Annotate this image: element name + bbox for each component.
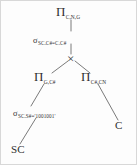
node-selection-student-number: σSC.S#='1001001' bbox=[13, 105, 55, 118]
relation-label: SC bbox=[11, 143, 25, 155]
node-projection-left: ΠG,C# bbox=[34, 70, 55, 83]
projection-subscript: C#,CN bbox=[91, 79, 107, 85]
projection-subscript: C,N,G bbox=[66, 14, 81, 20]
projection-subscript: G,C# bbox=[44, 79, 56, 85]
cross-product-symbol: × bbox=[67, 51, 74, 66]
tree-edges bbox=[1, 1, 137, 165]
projection-symbol: Π bbox=[81, 69, 90, 84]
edge-proj-right-to-rel-c bbox=[98, 84, 118, 120]
node-projection-right: ΠC#,CN bbox=[81, 70, 106, 83]
node-projection-top: ΠC,N,G bbox=[56, 5, 80, 18]
selection-symbol: σ bbox=[33, 35, 38, 45]
projection-symbol: Π bbox=[34, 69, 43, 84]
projection-symbol: Π bbox=[56, 4, 65, 19]
node-selection-join-condition: σSC.C#=C.C# bbox=[33, 32, 66, 45]
relation-label: C bbox=[115, 119, 123, 131]
edge-select-sno-to-rel-sc bbox=[20, 118, 36, 144]
node-relation-c: C bbox=[115, 120, 123, 131]
node-cross-product: × bbox=[67, 52, 74, 65]
query-tree-diagram: ΠC,N,G σSC.C#=C.C# × ΠG,C# ΠC#,CN σSC.S#… bbox=[0, 0, 137, 165]
node-relation-sc: SC bbox=[11, 144, 25, 155]
selection-subscript: SC.C#=C.C# bbox=[38, 40, 66, 46]
edge-proj-left-to-select-sno bbox=[31, 84, 44, 106]
selection-subscript: SC.S#='1001001' bbox=[18, 113, 56, 119]
selection-symbol: σ bbox=[13, 108, 18, 118]
